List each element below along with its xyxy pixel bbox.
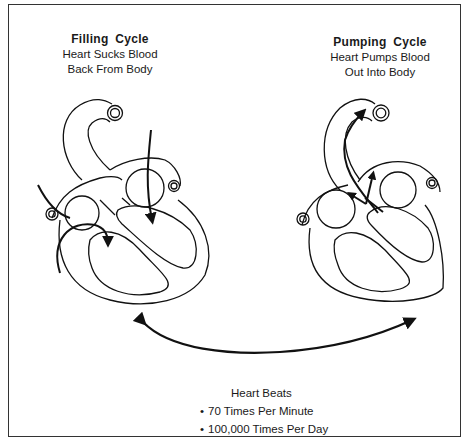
double-headed-curved-arrow-icon — [143, 320, 412, 353]
heart-pumping-diagram-icon — [297, 99, 443, 301]
heart-filling-diagram-icon — [46, 100, 209, 304]
